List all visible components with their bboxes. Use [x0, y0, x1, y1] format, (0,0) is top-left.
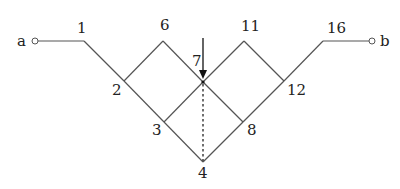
- edge-3-4: [164, 122, 203, 162]
- node-label-2: 2: [112, 81, 122, 99]
- terminal-a-label: a: [17, 32, 26, 50]
- terminal-b-label: b: [380, 32, 390, 50]
- edge-2-3: [124, 81, 164, 122]
- edge-2-6: [124, 41, 163, 81]
- node-label-4: 4: [198, 164, 208, 182]
- node-label-7: 7: [192, 52, 202, 70]
- node-label-3: 3: [152, 121, 162, 139]
- network-diagram: a b 1 2 3 4 6 7 8 11 12 16: [0, 0, 400, 189]
- edge-7-11: [203, 41, 244, 82]
- edge-11-12: [244, 41, 284, 81]
- node-label-16: 16: [327, 19, 346, 37]
- node-label-12: 12: [287, 81, 306, 99]
- edge-3-7: [164, 82, 203, 122]
- edge-1-2: [84, 41, 124, 81]
- edge-12-16: [284, 41, 323, 81]
- edge-7-8: [203, 82, 243, 122]
- terminal-b-circle: [369, 38, 375, 44]
- node-label-1: 1: [77, 19, 87, 37]
- terminal-a-circle: [32, 38, 38, 44]
- node-label-8: 8: [247, 121, 257, 139]
- node-7-dot: [201, 80, 204, 83]
- node-label-6: 6: [160, 16, 170, 34]
- edge-4-8: [203, 122, 243, 162]
- edge-8-12: [243, 81, 284, 122]
- node-label-11: 11: [241, 17, 260, 35]
